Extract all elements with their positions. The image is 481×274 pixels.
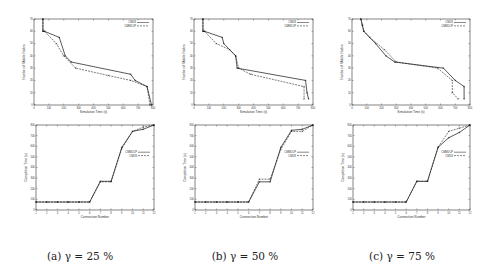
- y-tick-label: 500: [30, 155, 35, 159]
- legend-label: CMMDCP: [441, 24, 453, 28]
- x-tick-label: 100: [365, 106, 370, 110]
- x-tick-label: 3: [216, 211, 218, 215]
- x-tick-label: 500: [106, 106, 111, 110]
- caption-a: (a) γ = 25 %: [0, 250, 160, 262]
- x-tick-label: 700: [136, 106, 141, 110]
- series-line-cmmdcp: [353, 125, 470, 202]
- x-tick-label: 300: [236, 106, 241, 110]
- x-tick-label: 1: [352, 211, 354, 215]
- x-tick-label: 10: [447, 211, 450, 215]
- y-tick-label: 400: [189, 165, 194, 169]
- y-tick-label: 30: [190, 66, 193, 70]
- x-tick-label: 9: [280, 211, 282, 215]
- x-tick-label: 10: [290, 211, 293, 215]
- x-tick-label: 12: [469, 211, 472, 215]
- legend-label: CMDS: [288, 20, 296, 24]
- y-tick-label: 700: [347, 134, 352, 138]
- y-axis-label: Completion Time (s): [183, 153, 187, 182]
- y-tick-label: 10: [190, 91, 193, 95]
- series-line-cmds: [36, 125, 154, 202]
- legend-label: CMMDCP: [125, 150, 137, 154]
- x-axis-label: Simulation Time (s): [80, 110, 107, 114]
- x-tick-label: 500: [266, 106, 271, 110]
- x-tick-label: 6: [89, 211, 91, 215]
- x-tick-label: 4: [67, 211, 69, 215]
- plot-frame: [195, 125, 313, 210]
- y-tick-label: 500: [347, 155, 352, 159]
- x-tick-label: 10: [131, 211, 134, 215]
- x-tick-label: 6: [405, 211, 407, 215]
- x-tick-label: 0: [193, 106, 195, 110]
- x-tick-label: 8: [269, 211, 271, 215]
- x-tick-label: 200: [62, 106, 67, 110]
- x-tick-label: 400: [251, 106, 256, 110]
- legend-label: CMDS: [288, 154, 296, 158]
- x-tick-label: 600: [438, 106, 443, 110]
- x-tick-label: 8: [427, 211, 429, 215]
- y-tick-label: 300: [30, 176, 35, 180]
- x-tick-label: 5: [78, 211, 80, 215]
- y-tick-label: 50: [30, 41, 33, 45]
- plot-frame: [353, 125, 470, 210]
- series-line-cmds: [353, 125, 470, 202]
- y-tick-label: 700: [30, 134, 35, 138]
- plot-frame: [36, 125, 154, 210]
- y-tick-label: 700: [189, 134, 194, 138]
- y-axis-label: Completion Time (s): [24, 153, 28, 182]
- y-tick-label: 800: [189, 123, 194, 127]
- x-tick-label: 400: [409, 106, 414, 110]
- x-tick-label: 700: [453, 106, 458, 110]
- y-tick-label: 60: [30, 29, 33, 33]
- x-tick-label: 7: [100, 211, 102, 215]
- series-line-cmmdcp: [36, 125, 154, 202]
- y-tick-label: 40: [30, 54, 33, 58]
- y-tick-label: 800: [347, 123, 352, 127]
- x-tick-label: 800: [468, 106, 473, 110]
- y-tick-label: 600: [189, 144, 194, 148]
- x-tick-label: 300: [394, 106, 399, 110]
- series-line-cmds: [43, 19, 152, 105]
- plot-frame: [34, 19, 153, 105]
- y-axis-label: Number of Mobile Nodes: [340, 44, 344, 80]
- x-tick-label: 100: [47, 106, 52, 110]
- y-tick-label: 70: [190, 17, 193, 21]
- x-tick-label: 2: [205, 211, 207, 215]
- x-tick-label: 400: [91, 106, 96, 110]
- y-tick-label: 40: [190, 54, 193, 58]
- x-tick-label: 500: [424, 106, 429, 110]
- y-tick-label: 300: [347, 176, 352, 180]
- y-tick-label: 70: [30, 17, 33, 21]
- x-tick-label: 7: [416, 211, 418, 215]
- y-tick-label: 800: [30, 123, 35, 127]
- y-axis-label: Number of Mobile Nodes: [22, 44, 26, 80]
- y-tick-label: 400: [347, 165, 352, 169]
- y-tick-label: 70: [348, 17, 351, 21]
- series-line-cmmdcp: [361, 19, 458, 99]
- y-tick-label: 100: [30, 197, 35, 201]
- y-tick-label: 300: [189, 176, 194, 180]
- x-tick-label: 300: [76, 106, 81, 110]
- series-line-cmmdcp: [203, 19, 304, 99]
- x-axis-label: Connection Number: [240, 215, 269, 219]
- y-tick-label: 200: [189, 187, 194, 191]
- x-tick-label: 0: [351, 106, 353, 110]
- x-tick-label: 4: [226, 211, 228, 215]
- chart-a-bottom: 1234567891011120100200300400500600700800…: [24, 123, 156, 219]
- x-tick-label: 600: [281, 106, 286, 110]
- x-tick-label: 8: [110, 211, 112, 215]
- y-tick-label: 500: [189, 155, 194, 159]
- x-tick-label: 12: [153, 211, 156, 215]
- plot-frame: [194, 19, 313, 105]
- caption-b: (b) γ = 50 %: [165, 250, 325, 262]
- y-tick-label: 40: [348, 54, 351, 58]
- x-tick-label: 800: [311, 106, 316, 110]
- charts-canvas: 0100200300400500600700800010203040506070…: [0, 0, 481, 250]
- y-tick-label: 30: [348, 66, 351, 70]
- x-tick-label: 9: [121, 211, 123, 215]
- x-axis-label: Connection Number: [397, 215, 426, 219]
- x-tick-label: 3: [57, 211, 59, 215]
- y-tick-label: 30: [30, 66, 33, 70]
- x-axis-label: Connection Number: [81, 215, 110, 219]
- y-tick-label: 60: [190, 29, 193, 33]
- y-tick-label: 200: [30, 187, 35, 191]
